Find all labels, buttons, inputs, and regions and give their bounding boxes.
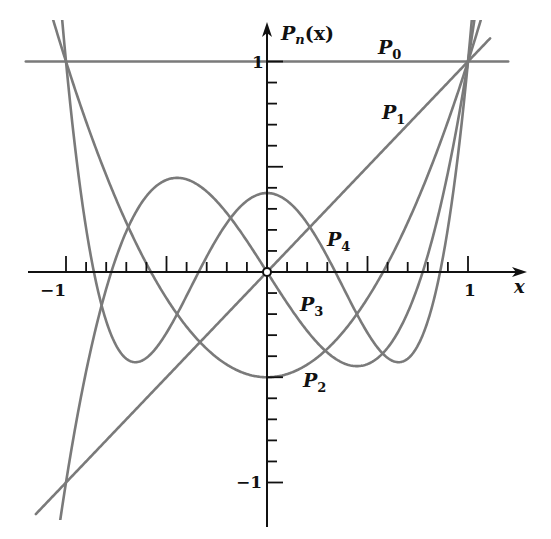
label-p4: P4 (326, 228, 350, 254)
x-axis-label: x (513, 276, 525, 297)
label-p2: P2 (302, 369, 326, 395)
y-tick-label-1: 1 (252, 52, 264, 72)
x-tick-label-1: 1 (464, 280, 476, 300)
y-tick-label-neg1: −1 (236, 472, 262, 492)
y-axis-label: Pn(x) (280, 22, 334, 47)
legendre-plot: Pn(x) x −1 1 1 −1 P0P1P2P3P4 (0, 0, 551, 539)
origin-marker-icon (263, 268, 271, 276)
label-p0: P0 (377, 36, 401, 62)
label-p1: P1 (381, 101, 405, 127)
axes-group (28, 22, 527, 527)
x-tick-label-neg1: −1 (40, 280, 66, 300)
label-p3: P3 (299, 293, 323, 319)
